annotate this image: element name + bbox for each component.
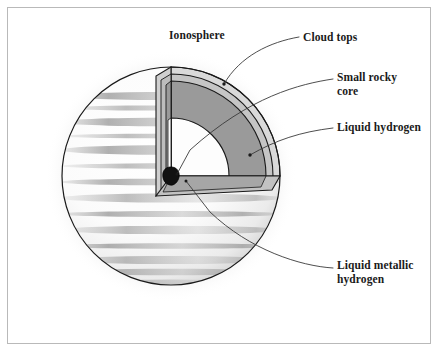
planet-cutaway-diagram [0,0,439,352]
label-cloud-tops: Cloud tops [303,31,357,45]
label-small-rocky-core: Small rocky core [337,71,397,98]
label-ionosphere: Ionosphere [169,29,225,43]
label-liquid-hydrogen: Liquid hydrogen [337,121,421,135]
figure-page: Ionosphere Cloud tops Small rocky core L… [0,0,439,352]
small-rocky-core [163,167,179,185]
label-liquid-metallic-hydrogen: Liquid metallic hydrogen [337,259,414,286]
